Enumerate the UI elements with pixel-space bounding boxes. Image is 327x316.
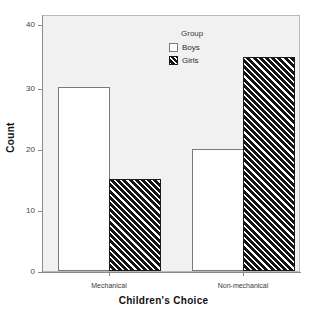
legend-title: Group [181,29,203,39]
y-axis-line [42,15,43,273]
y-axis-title: Count [5,108,16,168]
bar-mechanical-boys [58,87,110,271]
y-tick-mark [38,89,42,90]
y-tick-mark [38,25,42,26]
x-tick-mark-non-mechanical [243,272,244,276]
y-tick-label: 0 [31,266,35,277]
y-tick-mark [38,272,42,273]
plot-area: Group Boys Girls [42,15,300,272]
bar-mechanical-girls [109,179,161,271]
y-tick-label: 10 [26,205,35,216]
x-tick-label-mechanical: Mechanical [69,281,149,291]
y-tick-mark [38,211,42,212]
x-axis-title: Children's Choice [0,295,327,306]
x-axis-line [42,272,301,273]
y-tick-label: 20 [26,144,35,155]
legend-label-girls: Girls [182,56,198,66]
legend-item-boys[interactable]: Boys [169,42,203,53]
bar-non-mechanical-girls [243,57,295,271]
x-tick-label-non-mechanical: Non-mechanical [198,281,288,291]
legend-item-girls[interactable]: Girls [169,55,203,66]
legend-swatch-boys-icon [169,43,178,52]
bar-non-mechanical-boys [192,149,244,271]
legend-swatch-girls-icon [169,56,178,65]
y-tick-label: 40 [26,19,35,30]
y-tick-mark [38,150,42,151]
x-tick-mark-mechanical [109,272,110,276]
bar-chart: Group Boys Girls 40 30 20 10 0 [0,0,327,316]
legend-label-boys: Boys [182,43,200,53]
legend: Group Boys Girls [169,29,203,68]
y-tick-label: 30 [26,83,35,94]
